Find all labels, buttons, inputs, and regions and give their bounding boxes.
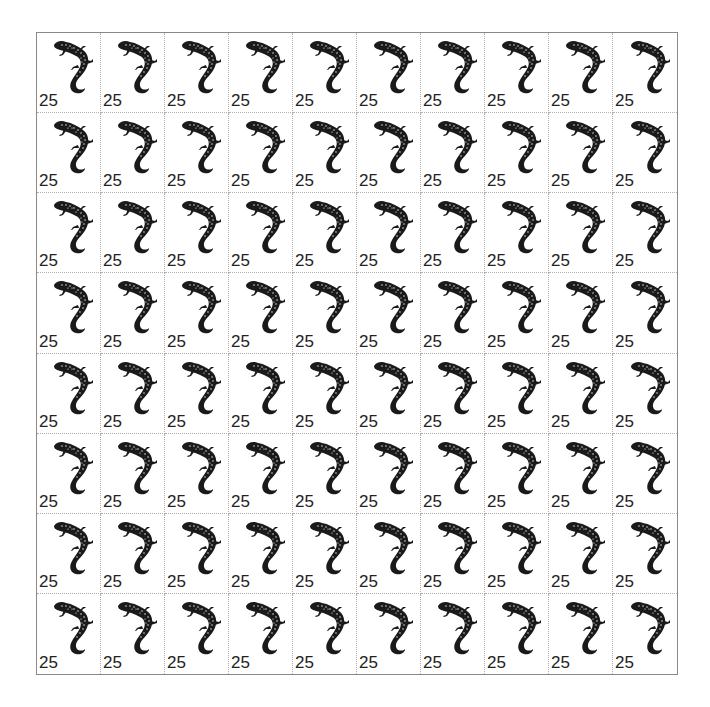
lizard-icon [242,117,286,175]
stamp-r6-c2[interactable]: 25 [101,434,165,514]
stamp-r6-c4[interactable]: 25 [229,434,293,514]
stamp-r6-c10[interactable]: 25 [613,434,677,514]
stamp-r5-c10[interactable]: 25 [613,354,677,434]
stamp-r2-c1[interactable]: 25 [37,113,101,193]
stamp-r5-c4[interactable]: 25 [229,354,293,434]
stamp-r1-c8[interactable]: 25 [485,33,549,113]
stamp-r5-c9[interactable]: 25 [549,354,613,434]
stamp-r3-c8[interactable]: 25 [485,193,549,273]
stamp-r7-c5[interactable]: 25 [293,514,357,594]
stamp-r2-c6[interactable]: 25 [357,113,421,193]
stamp-r7-c10[interactable]: 25 [613,514,677,594]
stamp-r1-c6[interactable]: 25 [357,33,421,113]
lizard-icon [370,197,414,255]
stamp-r1-c3[interactable]: 25 [165,33,229,113]
stamp-r1-c9[interactable]: 25 [549,33,613,113]
stamp-r6-c5[interactable]: 25 [293,434,357,514]
stamp-r6-c7[interactable]: 25 [421,434,485,514]
lizard-icon [50,438,94,496]
stamp-r2-c10[interactable]: 25 [613,113,677,193]
lizard-icon [306,37,350,95]
stamp-r2-c9[interactable]: 25 [549,113,613,193]
lizard-icon [306,438,350,496]
stamp-r8-c7[interactable]: 25 [421,594,485,674]
stamp-value: 25 [231,413,250,430]
stamp-r2-c2[interactable]: 25 [101,113,165,193]
stamp-r8-c10[interactable]: 25 [613,594,677,674]
stamp-r8-c6[interactable]: 25 [357,594,421,674]
lizard-icon [242,438,286,496]
stamp-r3-c5[interactable]: 25 [293,193,357,273]
stamp-r1-c10[interactable]: 25 [613,33,677,113]
stamp-r3-c4[interactable]: 25 [229,193,293,273]
stamp-r8-c2[interactable]: 25 [101,594,165,674]
lizard-icon [50,358,94,416]
lizard-icon [562,277,606,335]
stamp-value: 25 [551,573,570,590]
stamp-r2-c5[interactable]: 25 [293,113,357,193]
stamp-r1-c5[interactable]: 25 [293,33,357,113]
stamp-r5-c2[interactable]: 25 [101,354,165,434]
stamp-value: 25 [487,92,506,109]
stamp-r4-c8[interactable]: 25 [485,273,549,353]
stamp-r4-c3[interactable]: 25 [165,273,229,353]
stamp-r4-c6[interactable]: 25 [357,273,421,353]
stamp-r8-c1[interactable]: 25 [37,594,101,674]
stamp-value: 25 [423,413,442,430]
stamp-r1-c2[interactable]: 25 [101,33,165,113]
stamp-r3-c1[interactable]: 25 [37,193,101,273]
stamp-r6-c8[interactable]: 25 [485,434,549,514]
stamp-r3-c10[interactable]: 25 [613,193,677,273]
stamp-r8-c9[interactable]: 25 [549,594,613,674]
stamp-r4-c4[interactable]: 25 [229,273,293,353]
stamp-r7-c8[interactable]: 25 [485,514,549,594]
stamp-r1-c1[interactable]: 25 [37,33,101,113]
stamp-r4-c10[interactable]: 25 [613,273,677,353]
lizard-icon [498,358,542,416]
stamp-r4-c2[interactable]: 25 [101,273,165,353]
stamp-r2-c4[interactable]: 25 [229,113,293,193]
stamp-r5-c6[interactable]: 25 [357,354,421,434]
stamp-value: 25 [39,92,58,109]
stamp-r6-c3[interactable]: 25 [165,434,229,514]
stamp-r5-c3[interactable]: 25 [165,354,229,434]
stamp-r3-c6[interactable]: 25 [357,193,421,273]
stamp-r7-c9[interactable]: 25 [549,514,613,594]
stamp-r7-c2[interactable]: 25 [101,514,165,594]
stamp-r3-c2[interactable]: 25 [101,193,165,273]
stamp-r6-c6[interactable]: 25 [357,434,421,514]
stamp-r3-c7[interactable]: 25 [421,193,485,273]
lizard-icon [178,358,222,416]
stamp-r7-c3[interactable]: 25 [165,514,229,594]
stamp-r5-c5[interactable]: 25 [293,354,357,434]
stamp-r4-c9[interactable]: 25 [549,273,613,353]
stamp-value: 25 [423,654,442,671]
stamp-r4-c7[interactable]: 25 [421,273,485,353]
stamp-r8-c4[interactable]: 25 [229,594,293,674]
stamp-r2-c3[interactable]: 25 [165,113,229,193]
stamp-r1-c4[interactable]: 25 [229,33,293,113]
stamp-r6-c9[interactable]: 25 [549,434,613,514]
stamp-r5-c1[interactable]: 25 [37,354,101,434]
stamp-r5-c8[interactable]: 25 [485,354,549,434]
stamp-r2-c8[interactable]: 25 [485,113,549,193]
stamp-r4-c5[interactable]: 25 [293,273,357,353]
stamp-value: 25 [359,92,378,109]
stamp-r8-c3[interactable]: 25 [165,594,229,674]
stamp-r7-c6[interactable]: 25 [357,514,421,594]
stamp-r3-c9[interactable]: 25 [549,193,613,273]
stamp-r7-c4[interactable]: 25 [229,514,293,594]
stamp-r8-c8[interactable]: 25 [485,594,549,674]
stamp-value: 25 [551,252,570,269]
stamp-r8-c5[interactable]: 25 [293,594,357,674]
stamp-r6-c1[interactable]: 25 [37,434,101,514]
lizard-icon [306,598,350,656]
stamp-r2-c7[interactable]: 25 [421,113,485,193]
stamp-r3-c3[interactable]: 25 [165,193,229,273]
stamp-r5-c7[interactable]: 25 [421,354,485,434]
stamp-r7-c1[interactable]: 25 [37,514,101,594]
stamp-r1-c7[interactable]: 25 [421,33,485,113]
stamp-r4-c1[interactable]: 25 [37,273,101,353]
lizard-icon [306,518,350,576]
stamp-r7-c7[interactable]: 25 [421,514,485,594]
